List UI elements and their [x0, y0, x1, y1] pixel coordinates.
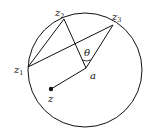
point-z-dot	[49, 87, 53, 91]
segment-z1-z2	[28, 19, 64, 67]
circle-geometry-figure: z2 z3 z1 a z θ	[0, 0, 150, 138]
label-a: a	[90, 70, 96, 81]
diagram-canvas: z2 z3 z1 a z θ	[0, 0, 150, 138]
angle-arc	[82, 60, 91, 61]
label-z2: z2	[54, 7, 64, 20]
segment-a-z	[51, 68, 86, 89]
label-z1: z1	[13, 64, 23, 77]
circle	[28, 13, 142, 127]
label-z: z	[47, 93, 54, 104]
label-theta: θ	[84, 47, 90, 58]
